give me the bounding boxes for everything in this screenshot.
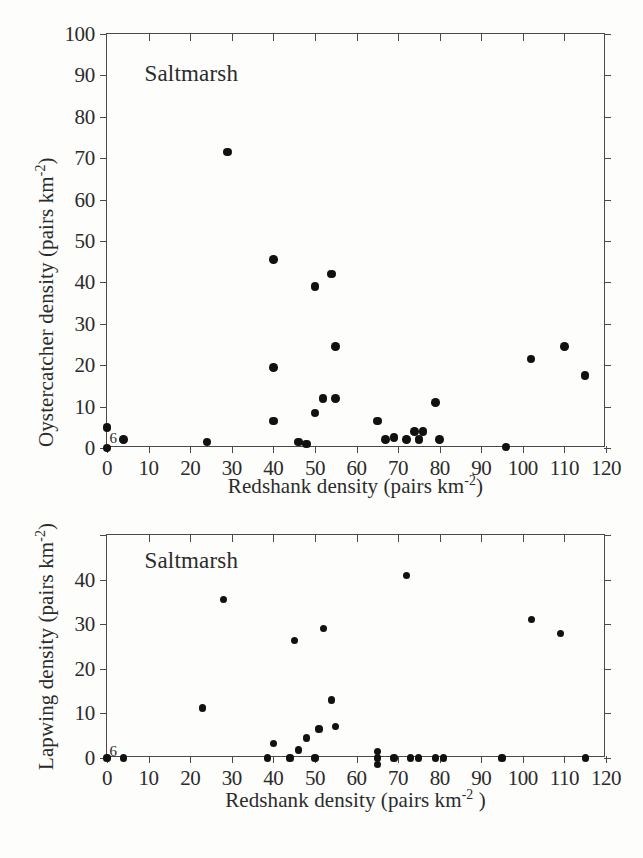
- y-axis-title-lapwing: Lapwing density (pairs km-2): [34, 523, 59, 770]
- x-axis-tick-top: [357, 34, 358, 41]
- y-axis-tick-label: 70: [75, 146, 95, 171]
- data-point: [407, 754, 414, 761]
- y-axis-tick-right: [604, 580, 611, 581]
- y-axis-tick-right: [604, 75, 611, 76]
- data-point: [311, 409, 320, 418]
- data-point: [381, 435, 390, 444]
- x-axis-tick: [190, 446, 191, 453]
- x-axis-tick-top: [357, 535, 358, 542]
- data-point: [402, 435, 411, 444]
- y-axis-tick-label: 30: [75, 612, 95, 637]
- data-point: [302, 440, 311, 449]
- x-axis-tick: [606, 446, 607, 453]
- x-axis-tick: [149, 756, 150, 763]
- y-axis-tick-label: 20: [75, 353, 95, 378]
- x-axis-tick-top: [315, 535, 316, 542]
- data-point: [120, 754, 127, 761]
- data-point: [269, 363, 278, 372]
- y-axis-tick-label: 50: [75, 229, 95, 254]
- panel-oystercatcher: Oystercatcher density (pairs km-2) 01020…: [0, 0, 643, 510]
- x-axis-tick-top: [523, 535, 524, 542]
- y-axis-tick: [100, 241, 107, 242]
- plot-area-lapwing: 0102030400102030405060708090100110120Sal…: [107, 535, 604, 756]
- data-point: [373, 417, 382, 426]
- x-axis-tick-top: [149, 535, 150, 542]
- y-axis-tick: [100, 282, 107, 283]
- data-point: [315, 725, 322, 732]
- y-axis-tick-right: [604, 34, 611, 35]
- x-axis-tick: [481, 756, 482, 763]
- x-axis-tick: [523, 446, 524, 453]
- y-axis-tick-label: 80: [75, 104, 95, 129]
- x-axis-tick-top: [564, 34, 565, 41]
- data-point: [581, 371, 590, 380]
- data-point: [332, 723, 339, 730]
- x-axis-tick-top: [481, 535, 482, 542]
- y-axis-title-exponent: -2: [33, 164, 48, 176]
- y-axis-tick-label: 30: [75, 311, 95, 336]
- data-point: [264, 754, 271, 761]
- x-axis-tick: [481, 446, 482, 453]
- y-axis-title-exponent: -2: [33, 530, 48, 542]
- y-axis-title-text: Lapwing density (pairs km: [34, 542, 58, 770]
- y-axis-tick-label: 40: [75, 567, 95, 592]
- data-point: [435, 435, 444, 444]
- x-axis-tick: [440, 446, 441, 453]
- data-point: [303, 734, 310, 741]
- x-axis-tick: [606, 756, 607, 763]
- x-axis-tick-top: [232, 34, 233, 41]
- data-point: [528, 616, 535, 623]
- y-axis-tick-label: 10: [75, 394, 95, 419]
- y-axis-tick: [100, 365, 107, 366]
- x-axis-tick: [357, 446, 358, 453]
- x-axis-tick-top: [273, 535, 274, 542]
- y-axis-tick: [100, 117, 107, 118]
- y-axis-tick-label: 10: [75, 701, 95, 726]
- x-axis-title-exponent: -2: [462, 787, 474, 802]
- y-axis-tick-right: [604, 407, 611, 408]
- y-axis-tick: [100, 535, 107, 536]
- plot-frame-oystercatcher: 0102030405060708090100010203040506070809…: [106, 33, 605, 447]
- data-point: [328, 696, 335, 703]
- x-axis-tick: [232, 756, 233, 763]
- y-axis-tick-right: [604, 624, 611, 625]
- data-point: [582, 754, 589, 761]
- x-axis-tick-top: [523, 34, 524, 41]
- x-axis-title-exponent: -2: [464, 473, 476, 488]
- y-axis-tick-right: [604, 535, 611, 536]
- y-axis-title-text: Oystercatcher density (pairs km: [34, 176, 58, 447]
- x-axis-tick: [149, 446, 150, 453]
- x-axis-tick-top: [315, 34, 316, 41]
- data-point: [311, 282, 320, 291]
- x-axis-tick-top: [440, 34, 441, 41]
- x-axis-tick-top: [398, 34, 399, 41]
- data-point: [291, 637, 298, 644]
- data-point: [502, 443, 511, 452]
- data-point: [560, 342, 569, 351]
- y-axis-title-tail: ): [34, 157, 58, 164]
- y-axis-tick: [100, 34, 107, 35]
- data-point: [223, 148, 232, 157]
- x-axis-tick-top: [273, 34, 274, 41]
- x-axis-title-tail: ): [473, 788, 485, 812]
- y-axis-tick-right: [604, 365, 611, 366]
- y-axis-tick-right: [604, 669, 611, 670]
- y-axis-tick-right: [604, 200, 611, 201]
- data-point: [203, 438, 212, 447]
- data-point: [390, 433, 399, 442]
- x-axis-tick: [398, 446, 399, 453]
- y-axis-tick-label: 40: [75, 270, 95, 295]
- y-axis-tick-right: [604, 713, 611, 714]
- x-axis-title-lapwing: Redshank density (pairs km-2 ): [106, 788, 605, 813]
- x-axis-title-text: Redshank density (pairs km: [228, 474, 464, 498]
- data-point: [269, 417, 278, 426]
- figure-page: Oystercatcher density (pairs km-2) 01020…: [0, 0, 643, 858]
- data-point: [431, 398, 440, 407]
- y-axis-tick: [100, 407, 107, 408]
- y-axis-tick: [100, 158, 107, 159]
- overlap-count-label: 6: [109, 743, 117, 760]
- x-axis-tick-top: [398, 535, 399, 542]
- y-axis-tick: [100, 580, 107, 581]
- data-point: [432, 754, 439, 761]
- y-axis-tick-label: 0: [85, 436, 95, 461]
